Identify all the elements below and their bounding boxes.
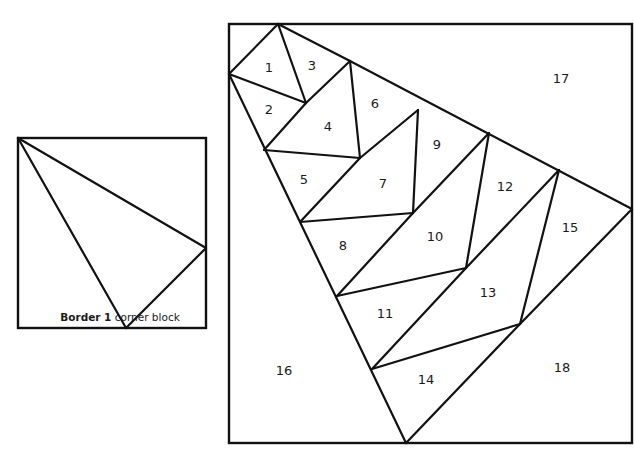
seam-line xyxy=(300,158,360,222)
piece-number-2: 2 xyxy=(265,102,273,117)
seam-line xyxy=(350,61,632,209)
piece-number-9: 9 xyxy=(433,137,441,152)
piece-number-12: 12 xyxy=(497,179,514,194)
piece-number-3: 3 xyxy=(308,58,316,73)
piece-number-4: 4 xyxy=(324,119,332,134)
piece-number-1: 1 xyxy=(265,60,273,75)
corner-block-border xyxy=(18,138,206,328)
piece-number-11: 11 xyxy=(377,306,394,321)
seam-line xyxy=(337,268,466,296)
quilt-diagram: 123456789101112131415161718 xyxy=(0,0,634,449)
piece-number-6: 6 xyxy=(371,96,379,111)
piece-number-17: 17 xyxy=(553,71,570,86)
piece-number-8: 8 xyxy=(339,238,347,253)
seam-line xyxy=(264,150,360,158)
seam-line xyxy=(337,213,413,296)
corner-block-caption: Border 1 corner block xyxy=(20,311,220,323)
seam-line xyxy=(413,110,418,213)
piece-number-10: 10 xyxy=(427,229,444,244)
seam-line xyxy=(520,170,559,324)
seam-line xyxy=(229,74,406,443)
seam-line xyxy=(360,110,418,158)
piece-number-13: 13 xyxy=(480,285,497,300)
seam-line xyxy=(18,138,126,328)
seam-line xyxy=(350,61,360,158)
piece-number-14: 14 xyxy=(418,372,435,387)
piece-number-5: 5 xyxy=(300,172,308,187)
caption-rest: corner block xyxy=(111,311,179,323)
piece-number-15: 15 xyxy=(562,220,579,235)
caption-bold: Border 1 xyxy=(60,311,111,323)
seam-line xyxy=(300,213,413,222)
piece-number-18: 18 xyxy=(554,360,571,375)
piece-number-7: 7 xyxy=(379,176,387,191)
corner-block xyxy=(18,138,206,328)
paper-piecing-block: 123456789101112131415161718 xyxy=(229,24,632,443)
seam-line xyxy=(18,138,206,248)
piece-number-16: 16 xyxy=(276,363,293,378)
